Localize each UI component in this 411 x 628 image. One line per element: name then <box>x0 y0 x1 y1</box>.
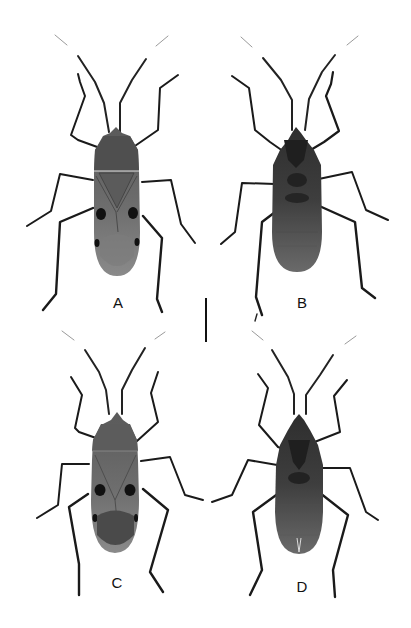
specimen-c <box>37 331 203 595</box>
specimen-figure: A B C D <box>0 0 411 628</box>
specimen-a <box>27 35 195 312</box>
scale-bar <box>205 298 207 342</box>
specimen-b <box>221 36 388 315</box>
panel-label-c: C <box>112 574 123 591</box>
panel-label-a: A <box>113 294 123 311</box>
panel-label-b: B <box>297 294 307 311</box>
panel-label-d: D <box>297 578 308 595</box>
specimen-d <box>212 314 378 597</box>
